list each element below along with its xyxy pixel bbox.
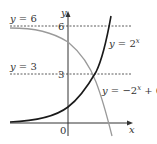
graph: y = 6 y = 3 6 3 0 x y y = 2x y = −2x + 6 bbox=[0, 0, 157, 144]
y-axis-label: y bbox=[60, 7, 67, 18]
exp-curve-label: y = 2x bbox=[108, 37, 140, 49]
reflected-curve-label: y = −2x + 6 bbox=[101, 84, 157, 96]
x-axis-label: x bbox=[129, 124, 135, 135]
tick-3-label: 3 bbox=[58, 69, 64, 80]
y6-label: y = 6 bbox=[9, 13, 37, 24]
y3-label: y = 3 bbox=[9, 61, 37, 72]
origin-label: 0 bbox=[60, 125, 66, 136]
tick-6-label: 6 bbox=[58, 21, 64, 32]
curve-reflected bbox=[10, 28, 112, 136]
